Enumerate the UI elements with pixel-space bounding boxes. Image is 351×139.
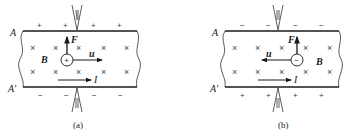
panel-b: A A' − − − − + + + + × × × × × × × × × bbox=[209, 5, 342, 130]
field-label: B bbox=[315, 56, 323, 67]
svg-text:×: × bbox=[255, 67, 260, 77]
strip-right-break bbox=[136, 31, 140, 87]
force-label: F bbox=[70, 34, 78, 45]
charge-top-4: − bbox=[319, 21, 324, 30]
charge-bottom-4: + bbox=[319, 91, 324, 100]
svg-text:×: × bbox=[279, 43, 284, 53]
svg-text:×: × bbox=[124, 67, 129, 77]
svg-text:×: × bbox=[303, 43, 308, 53]
current-label: I bbox=[293, 74, 298, 85]
svg-text:×: × bbox=[255, 43, 260, 53]
svg-text:×: × bbox=[53, 43, 58, 53]
svg-text:×: × bbox=[279, 67, 284, 77]
charge-top-4: + bbox=[117, 21, 122, 30]
svg-text:×: × bbox=[327, 43, 332, 53]
charge-top-2: − bbox=[266, 21, 271, 30]
edge-label-bottom: A' bbox=[209, 83, 219, 94]
field-label: B bbox=[40, 54, 48, 65]
charge-bottom-1: − bbox=[38, 91, 43, 100]
probe-top bbox=[273, 5, 283, 30]
caption-b: (b) bbox=[278, 120, 289, 130]
svg-text:×: × bbox=[232, 67, 237, 77]
carrier-sign: − bbox=[294, 56, 299, 65]
current-label: I bbox=[93, 74, 98, 85]
edge-label-top: A bbox=[9, 27, 17, 38]
charge-bottom-1: + bbox=[240, 91, 245, 100]
strip-left-break bbox=[221, 31, 226, 87]
edge-label-bottom: A' bbox=[7, 83, 17, 94]
strip-left-break bbox=[19, 31, 24, 87]
charge-bottom-4: − bbox=[118, 91, 123, 100]
velocity-label: u bbox=[89, 48, 95, 59]
svg-text:×: × bbox=[30, 67, 35, 77]
svg-text:×: × bbox=[327, 67, 332, 77]
charge-top-3: − bbox=[293, 21, 298, 30]
carrier-sign: + bbox=[64, 56, 69, 65]
charge-bottom-3: + bbox=[293, 91, 298, 100]
charge-bottom-2: − bbox=[64, 91, 69, 100]
panel-a: A A' + + + + − − − − × × × × × × bbox=[7, 5, 140, 130]
probe-bottom bbox=[72, 88, 82, 112]
velocity-label: u bbox=[266, 48, 272, 59]
strip-right-break bbox=[338, 31, 342, 87]
force-label: F bbox=[287, 34, 295, 45]
charge-top-3: + bbox=[91, 21, 96, 30]
charge-top-2: + bbox=[63, 21, 68, 30]
edge-label-top: A bbox=[211, 27, 219, 38]
charge-bottom-3: − bbox=[92, 91, 97, 100]
charge-top-1: + bbox=[37, 21, 42, 30]
svg-text:×: × bbox=[232, 43, 237, 53]
svg-text:×: × bbox=[76, 67, 81, 77]
svg-text:×: × bbox=[101, 67, 106, 77]
charge-bottom-2: + bbox=[266, 91, 271, 100]
probe-top bbox=[72, 5, 82, 30]
svg-text:×: × bbox=[53, 67, 58, 77]
svg-text:×: × bbox=[303, 67, 308, 77]
svg-text:×: × bbox=[101, 43, 106, 53]
charge-top-1: − bbox=[240, 21, 245, 30]
svg-text:×: × bbox=[124, 43, 129, 53]
probe-bottom bbox=[273, 88, 283, 112]
caption-a: (a) bbox=[73, 120, 83, 130]
svg-text:×: × bbox=[30, 43, 35, 53]
